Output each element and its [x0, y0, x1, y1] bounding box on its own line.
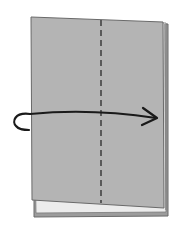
origami-diagram: [0, 0, 189, 252]
paper-right-edge: [165, 24, 166, 210]
fold-arrow: [14, 114, 30, 130]
